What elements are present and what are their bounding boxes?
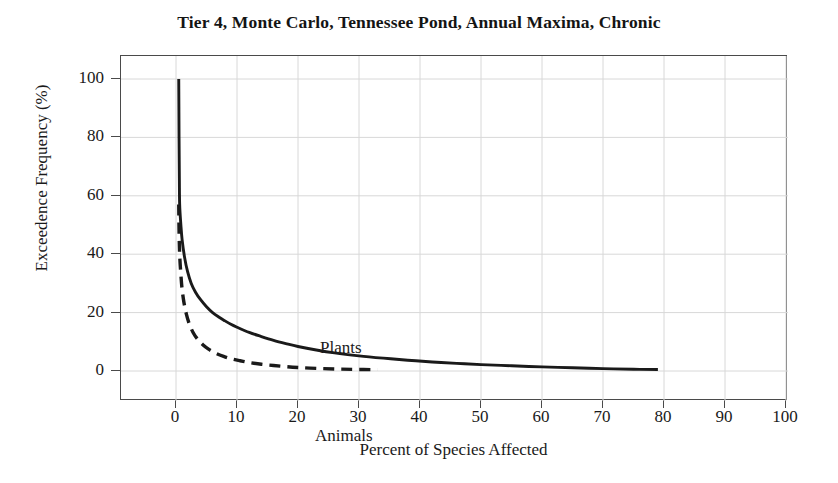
y-tick-mark: [111, 253, 120, 254]
x-tick-mark: [724, 400, 725, 408]
y-tick-label: 40: [52, 244, 104, 261]
series-label-plants: Plants: [320, 338, 362, 358]
x-axis-label: Percent of Species Affected: [120, 440, 787, 460]
y-tick-mark: [111, 136, 120, 137]
x-tick-mark: [236, 400, 237, 408]
x-tick-label: 20: [267, 408, 327, 425]
plot-canvas: [121, 56, 788, 401]
x-tick-mark: [785, 400, 786, 408]
x-tick-label: 90: [694, 408, 754, 425]
x-tick-mark: [419, 400, 420, 408]
x-tick-mark: [663, 400, 664, 408]
x-tick-mark: [480, 400, 481, 408]
x-tick-mark: [541, 400, 542, 408]
x-tick-label: 60: [511, 408, 571, 425]
chart-figure: Tier 4, Monte Carlo, Tennessee Pond, Ann…: [0, 0, 838, 483]
x-tick-label: 70: [572, 408, 632, 425]
y-tick-label: 80: [52, 127, 104, 144]
y-tick-mark: [111, 312, 120, 313]
y-tick-label: 20: [52, 303, 104, 320]
y-tick-mark: [111, 370, 120, 371]
x-tick-label: 0: [145, 408, 205, 425]
x-tick-label: 80: [633, 408, 693, 425]
x-tick-mark: [602, 400, 603, 408]
y-tick-label: 60: [52, 186, 104, 203]
x-tick-label: 30: [328, 408, 388, 425]
series-label-animals: Animals: [315, 426, 373, 446]
series-line-plants: [179, 79, 658, 370]
chart-title: Tier 4, Monte Carlo, Tennessee Pond, Ann…: [0, 12, 838, 33]
y-tick-mark: [111, 78, 120, 79]
y-tick-mark: [111, 195, 120, 196]
x-tick-mark: [358, 400, 359, 408]
x-tick-label: 10: [206, 408, 266, 425]
x-tick-mark: [297, 400, 298, 408]
x-tick-label: 50: [450, 408, 510, 425]
gridlines: [121, 56, 788, 401]
x-tick-label: 100: [755, 408, 815, 425]
x-tick-mark: [175, 400, 176, 408]
plot-area: Plants Animals: [120, 55, 787, 400]
x-tick-label: 40: [389, 408, 449, 425]
y-tick-label: 0: [52, 361, 104, 378]
y-axis-label: Exceedence Frequency (%): [32, 8, 52, 348]
y-tick-label: 100: [52, 69, 104, 86]
series-lines: [179, 79, 658, 370]
